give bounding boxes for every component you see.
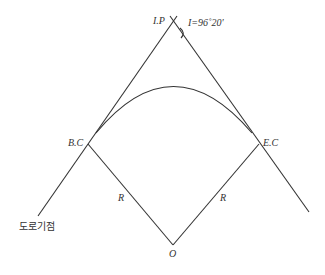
curve-diagram: I.P I=96˚20′ B.C E.C R R O 도로기점 — [0, 0, 325, 275]
left-tangent-line — [38, 16, 177, 216]
road-start-label: 도로기점 — [19, 221, 55, 232]
radius-line-left — [88, 144, 173, 245]
center-label: O — [169, 248, 176, 259]
ip-label: I.P — [152, 15, 165, 26]
circular-curve-arc — [96, 87, 252, 134]
radius-line-right — [173, 144, 259, 245]
angle-label: I=96˚20′ — [187, 17, 224, 28]
bc-label: B.C — [68, 137, 84, 148]
ec-label: E.C — [262, 137, 279, 148]
radius-label-left: R — [117, 192, 124, 203]
radius-label-right: R — [219, 192, 226, 203]
right-tangent-line — [170, 16, 309, 212]
